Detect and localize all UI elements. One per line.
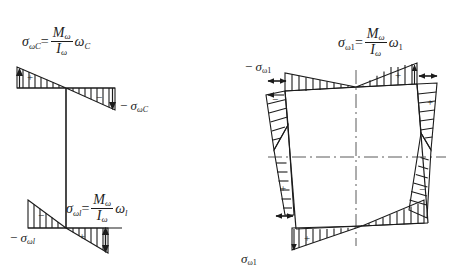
left-bottom-left-label-sub: ωl: [27, 237, 35, 246]
right-bottom-flange-plus-wedge: [292, 226, 362, 250]
left-bottom-formula-fraction: MωIω: [91, 193, 113, 224]
right-formula-sigma-sub: ω1: [345, 42, 355, 52]
left-top-formula-omega: ω: [75, 34, 85, 49]
left-top-formula-equals: =: [41, 34, 49, 49]
right-top-left-label: − σω1: [245, 60, 271, 75]
left-top-formula-fraction: MωIω: [51, 26, 73, 57]
sign-right-bflange-plus: +: [304, 232, 310, 244]
right-top-left-label-minus: −: [245, 59, 252, 74]
left-bottom-formula-M-sub: ω: [105, 198, 111, 208]
right-formula-fraction: MωIω: [365, 27, 387, 58]
left-bottom-left-label-minus: −: [10, 230, 17, 245]
left-bottom-formula-M: M: [93, 192, 105, 207]
right-formula-I-sub: ω: [375, 49, 381, 59]
sign-right-rweb-minus: −: [419, 183, 425, 195]
left-top-formula-omega-sub: C: [84, 41, 90, 51]
sign-right-lweb-plus: +: [280, 182, 286, 194]
left-top-right-label-sub: ωC: [137, 105, 148, 114]
sign-left-top-minus: −: [96, 91, 102, 103]
left-top-formula-sigma-sub: ωC: [29, 41, 41, 51]
right-formula-equals: =: [355, 35, 363, 50]
sign-left-top-plus: +: [27, 71, 33, 83]
left-bottom-formula-I-sub: ω: [102, 215, 108, 225]
right-formula-M-sub: ω: [379, 32, 385, 42]
right-formula-omega: ω: [389, 35, 399, 50]
left-top-formula-M: M: [53, 25, 65, 40]
sign-right-tflange-plus: +: [395, 69, 401, 81]
sign-right-lweb-minus: −: [272, 93, 278, 105]
left-bottom-plus-wedge: [66, 228, 108, 253]
left-top-right-label-minus: −: [120, 98, 127, 113]
left-top-formula-I-sub: ω: [61, 48, 67, 58]
left-top-minus-wedge: [66, 88, 115, 110]
left-bottom-formula: σωl=MωIωωl: [66, 193, 127, 224]
left-bottom-formula-equals: =: [81, 201, 89, 216]
left-bottom-formula-omega-sub: l: [125, 208, 127, 218]
sign-left-bottom-minus: −: [38, 209, 44, 221]
left-top-right-label: − σωC: [120, 99, 148, 114]
left-bottom-minus-wedge: [28, 200, 66, 228]
left-bottom-formula-sigma: σ: [66, 201, 73, 216]
sign-right-rweb-plus: +: [427, 96, 433, 108]
right-bottom-left-label: σω1: [241, 252, 257, 267]
left-top-formula-sigma: σ: [22, 34, 29, 49]
right-formula-omega-sub: 1: [399, 42, 403, 52]
right-formula-sigma: σ: [338, 35, 345, 50]
left-top-plus-wedge: [17, 67, 66, 88]
left-bottom-formula-omega: ω: [115, 201, 125, 216]
left-bottom-left-label: − σωl: [10, 231, 35, 246]
right-top-flange-plus-wedge: [356, 63, 417, 87]
left-top-formula: σωC=MωIωωC: [22, 26, 90, 57]
right-bottom-left-label-sub: ω1: [247, 258, 256, 267]
right-formula: σω1=MωIωω1: [338, 27, 403, 58]
right-top-left-label-sub: ω1: [262, 66, 271, 75]
left-top-formula-M-sub: ω: [64, 31, 70, 41]
sign-left-bottom-plus: +: [79, 230, 85, 242]
figure-canvas: + − − + − + + + − + σωC=MωIωωC − σωC σωl…: [0, 0, 461, 279]
right-formula-M: M: [367, 26, 379, 41]
